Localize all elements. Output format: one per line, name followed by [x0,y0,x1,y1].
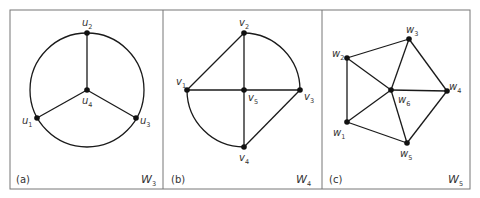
wheel-graphs-figure: u1u2u3u4(a)W3v1v2v3v4v5(b)W4w1w2w3w4w5w6… [0,0,480,198]
edge-w6-w3 [391,39,409,90]
vertex-label-w2: w2 [332,48,344,62]
edge-w4-w5 [407,91,447,143]
edge-w6-w2 [347,58,391,90]
wheel-name: W4 [296,173,311,188]
vertex-label-w5: w5 [400,148,412,162]
panel-a: u1u2u3u4(a)W3 [16,17,156,188]
vertex-v5 [241,87,247,93]
edge-u4-u1 [37,90,87,118]
edge-w2-w3 [347,39,409,58]
vertex-label-v2: v2 [239,17,249,31]
vertex-v3 [297,87,303,93]
vertex-label-w4: w4 [449,81,461,95]
panel-tag: (b) [171,174,185,185]
vertex-u4 [84,87,90,93]
edge-w6-w1 [347,90,391,122]
vertex-label-w6: w6 [398,94,410,108]
vertex-w3 [406,36,412,42]
vertex-v2 [241,30,247,36]
vertex-w6 [388,87,394,93]
panel-tag: (a) [16,174,30,185]
panel-tag: (c) [329,174,342,185]
edge-w6-w4 [391,90,447,91]
vertex-label-w1: w1 [333,127,345,141]
vertex-label-w3: w3 [406,24,418,38]
vertex-u1 [34,115,40,121]
wheel-name: W3 [141,173,156,188]
edge-w5-w1 [347,122,407,143]
vertex-label-u4: u4 [82,95,92,109]
vertex-w1 [344,119,350,125]
rim-arc [187,90,244,147]
wheel-name: W5 [448,173,463,188]
edge-v1-v2 [187,33,244,90]
panel-b: v1v2v3v4v5(b)W4 [171,17,314,188]
edge-u4-u3 [87,90,136,118]
vertex-v4 [241,144,247,150]
vertex-label-u3: u3 [140,115,150,129]
vertex-w5 [404,140,410,146]
vertex-label-v4: v4 [239,152,249,166]
vertex-u3 [133,115,139,121]
vertex-u2 [84,30,90,36]
vertex-label-u1: u1 [22,115,32,129]
vertex-label-v1: v1 [176,76,186,90]
vertex-label-v5: v5 [248,92,258,106]
edge-w3-w4 [409,39,447,91]
rim-arc [244,33,300,90]
vertex-w2 [344,55,350,61]
panel-c: w1w2w3w4w5w6(c)W5 [329,24,463,188]
vertex-label-u2: u2 [82,17,92,31]
vertex-label-v3: v3 [304,91,314,105]
